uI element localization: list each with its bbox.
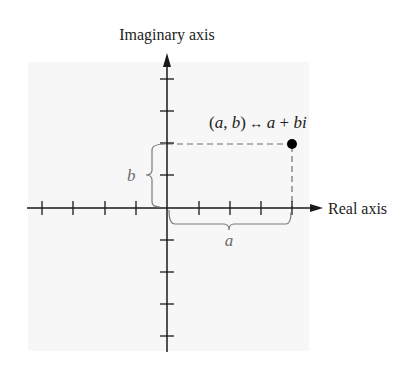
point-label-a: a <box>215 113 224 132</box>
complex-plane-diagram: Imaginary axis Real axis (a, b) ↔ a + bi… <box>0 0 416 374</box>
point-label-bi: bi <box>293 113 307 132</box>
brace-a-label: a <box>225 231 234 250</box>
brace-b-label: b <box>127 166 136 185</box>
real-axis-arrow-icon <box>310 204 323 212</box>
imaginary-axis-label: Imaginary axis <box>119 26 215 44</box>
complex-point <box>287 139 297 149</box>
point-label-a2: a <box>267 113 276 132</box>
equivalence-arrow-icon: ↔ <box>246 116 267 131</box>
imaginary-axis-arrow-icon <box>163 53 171 67</box>
point-label: (a, b) ↔ a + bi <box>209 113 307 132</box>
point-label-b: b <box>232 113 241 132</box>
point-label-plus: + <box>275 113 293 132</box>
background-panel <box>28 62 309 351</box>
point-label-comma: , <box>223 113 232 132</box>
real-axis-label: Real axis <box>328 200 387 217</box>
